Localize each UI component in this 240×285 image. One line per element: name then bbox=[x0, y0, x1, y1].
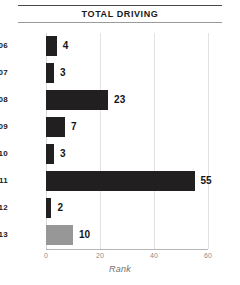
bar-2006 bbox=[46, 36, 57, 56]
chart-figure: TOTAL DRIVING 20064200732008232009720103… bbox=[0, 0, 240, 285]
bar-value-2006: 4 bbox=[63, 36, 69, 56]
chart-title: TOTAL DRIVING bbox=[18, 6, 222, 22]
category-label-2011: 2011 bbox=[0, 171, 8, 191]
gridline-60 bbox=[208, 33, 209, 249]
x-tick-20: 20 bbox=[96, 252, 104, 259]
bar-row: 20103 bbox=[46, 141, 208, 168]
bar-2009 bbox=[46, 117, 65, 137]
title-rule-bottom bbox=[18, 22, 222, 23]
bar-row: 20064 bbox=[46, 33, 208, 60]
category-label-2013: 2013 bbox=[0, 225, 8, 245]
bar-value-2010: 3 bbox=[60, 144, 66, 164]
category-label-2010: 2010 bbox=[0, 144, 8, 164]
x-tick-0: 0 bbox=[44, 252, 48, 259]
title-block: TOTAL DRIVING bbox=[18, 5, 222, 23]
category-label-2007: 2007 bbox=[0, 63, 8, 83]
bar-value-2011: 55 bbox=[201, 171, 212, 191]
plot-area: 2006420073200823200972010320115520122201… bbox=[46, 33, 208, 249]
bar-row: 201155 bbox=[46, 168, 208, 195]
category-label-2009: 2009 bbox=[0, 117, 8, 137]
category-label-2008: 2008 bbox=[0, 90, 8, 110]
bar-value-2013: 10 bbox=[79, 225, 90, 245]
bar-2013 bbox=[46, 225, 73, 245]
bar-row: 201310 bbox=[46, 222, 208, 249]
bar-row: 200823 bbox=[46, 87, 208, 114]
bar-2012 bbox=[46, 198, 51, 218]
x-tick-60: 60 bbox=[204, 252, 212, 259]
bar-value-2008: 23 bbox=[114, 90, 125, 110]
bar-value-2007: 3 bbox=[60, 63, 66, 83]
bar-row: 20122 bbox=[46, 195, 208, 222]
x-axis-label: Rank bbox=[0, 264, 240, 274]
category-label-2012: 2012 bbox=[0, 198, 8, 218]
bar-2007 bbox=[46, 63, 54, 83]
bar-2011 bbox=[46, 171, 195, 191]
bar-row: 20073 bbox=[46, 60, 208, 87]
bar-value-2009: 7 bbox=[71, 117, 77, 137]
category-label-2006: 2006 bbox=[0, 36, 8, 56]
bar-value-2012: 2 bbox=[57, 198, 63, 218]
bar-2008 bbox=[46, 90, 108, 110]
x-tick-40: 40 bbox=[150, 252, 158, 259]
bar-row: 20097 bbox=[46, 114, 208, 141]
bar-2010 bbox=[46, 144, 54, 164]
x-axis-line bbox=[46, 249, 208, 250]
